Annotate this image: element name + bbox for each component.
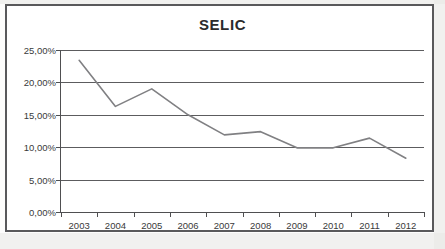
x-tick-mark <box>243 212 244 217</box>
y-tick-label: 25,00% <box>6 45 56 56</box>
y-tick-label: 15,00% <box>6 109 56 120</box>
y-tick-mark <box>56 180 60 181</box>
y-tick-mark <box>56 82 60 83</box>
x-tick-mark <box>206 212 207 217</box>
y-tick-mark <box>56 115 60 116</box>
y-tick-mark <box>56 50 60 51</box>
x-tick-mark <box>279 212 280 217</box>
x-tick-label: 2011 <box>350 220 390 231</box>
x-tick-label: 2009 <box>277 220 317 231</box>
x-tick-label: 2007 <box>204 220 244 231</box>
x-axis-tick-marks <box>61 212 424 218</box>
x-tick-label: 2003 <box>59 220 99 231</box>
x-axis-tick-labels: 2003200420052006200720082009201020112012 <box>61 220 424 234</box>
x-tick-mark <box>170 212 171 217</box>
scan-artifact-right <box>434 0 445 249</box>
x-tick-mark <box>424 212 425 217</box>
y-tick-mark <box>56 147 60 148</box>
x-tick-label: 2010 <box>313 220 353 231</box>
x-tick-label: 2004 <box>95 220 135 231</box>
x-tick-label: 2012 <box>386 220 426 231</box>
x-tick-label: 2006 <box>168 220 208 231</box>
chart-title: SELIC <box>0 16 445 33</box>
x-tick-mark <box>351 212 352 217</box>
y-tick-label: 20,00% <box>6 77 56 88</box>
series-selic-line <box>61 50 424 212</box>
x-tick-mark <box>134 212 135 217</box>
x-tick-label: 2008 <box>241 220 281 231</box>
y-axis-tick-labels: 0,00%5,00%10,00%15,00%20,00%25,00% <box>4 50 56 212</box>
y-tick-label: 0,00% <box>6 207 56 218</box>
scan-artifact-bottom <box>0 233 445 249</box>
x-tick-mark <box>97 212 98 217</box>
y-tick-label: 10,00% <box>6 142 56 153</box>
x-tick-mark <box>388 212 389 217</box>
x-tick-mark <box>61 212 62 217</box>
x-tick-label: 2005 <box>132 220 172 231</box>
x-tick-mark <box>315 212 316 217</box>
y-tick-label: 5,00% <box>6 174 56 185</box>
chart-figure: SELIC 0,00%5,00%10,00%15,00%20,00%25,00%… <box>0 0 445 249</box>
